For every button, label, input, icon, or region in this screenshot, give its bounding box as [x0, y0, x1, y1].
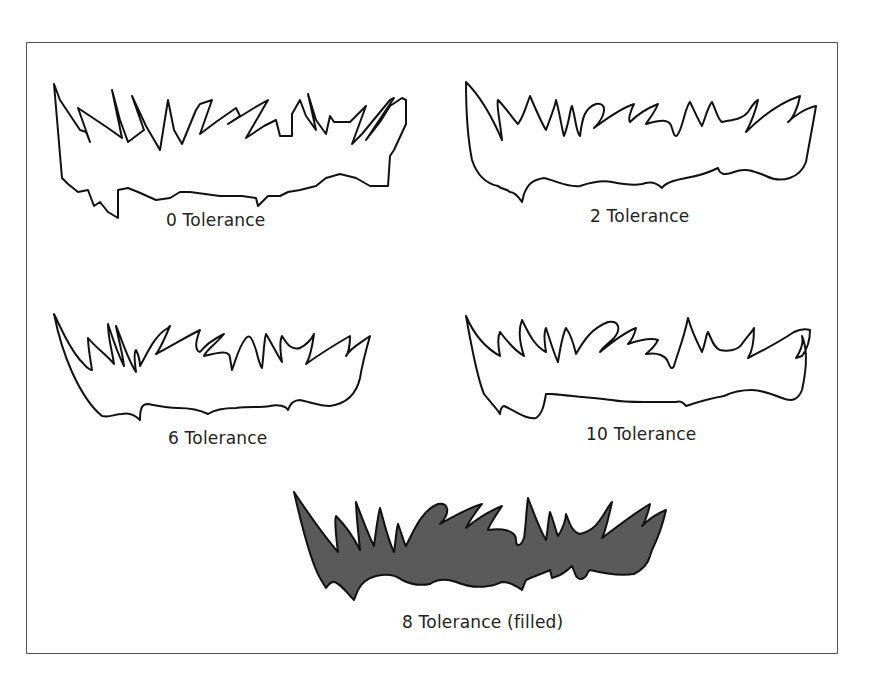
label-6-tolerance: 6 Tolerance: [168, 428, 268, 448]
label-8-tolerance-filled: 8 Tolerance (filled): [402, 612, 563, 632]
jagged-outline-0-tolerance: [50, 80, 400, 200]
filled-shape-8-tolerance: [290, 490, 670, 610]
label-0-tolerance: 0 Tolerance: [166, 210, 266, 230]
jagged-outline-6-tolerance: [50, 310, 400, 420]
jagged-outline-10-tolerance: [462, 310, 812, 420]
jagged-outline-2-tolerance: [462, 80, 812, 200]
label-2-tolerance: 2 Tolerance: [590, 206, 690, 226]
label-10-tolerance: 10 Tolerance: [586, 424, 697, 444]
